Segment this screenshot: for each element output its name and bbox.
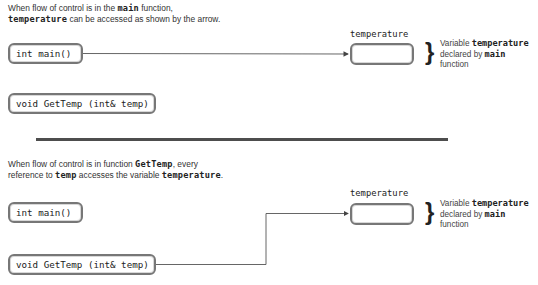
arrows-layer (0, 0, 538, 285)
top-arrow-icon (83, 54, 348, 55)
bottom-arrow-icon (156, 214, 348, 265)
